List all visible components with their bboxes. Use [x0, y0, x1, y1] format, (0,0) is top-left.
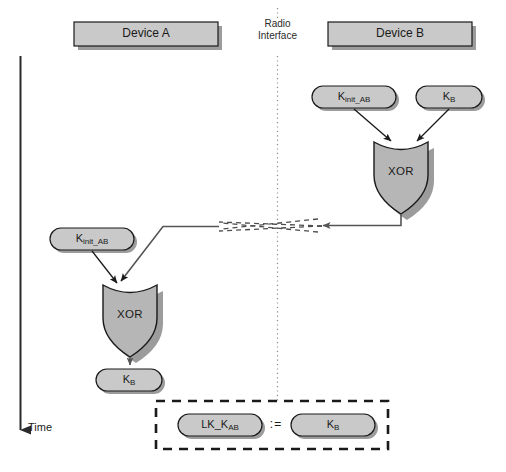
node-a-k-b-output-label: KB — [96, 373, 162, 389]
device-b-input-edges — [354, 109, 449, 141]
node-a-k-b-output-base: K — [123, 373, 130, 385]
device-b-output-edge — [323, 214, 401, 226]
xor-gate-device-b — [374, 142, 434, 220]
xor-gate-device-a-label: XOR — [103, 308, 157, 321]
node-b-k-b-label: KB — [416, 90, 482, 106]
node-b-k-b-subscript: B — [450, 95, 455, 104]
node-result-k-b-base: K — [327, 418, 334, 430]
device-a-incoming-edge — [121, 227, 219, 282]
node-result-k-b-subscript: B — [334, 423, 339, 432]
node-a-k-init-ab-subscript: init_AB — [83, 237, 108, 246]
device-b-label: Device B — [328, 27, 472, 40]
radio-transmission-waves — [219, 219, 322, 232]
node-b-k-init-ab-label: Kinit_AB — [312, 90, 396, 106]
diagram-canvas: Device A Device B Radio Interface Kinit_… — [0, 0, 506, 472]
radio-interface-label-line2: Interface — [243, 30, 312, 42]
node-b-k-b-base: K — [443, 90, 450, 102]
time-axis-label: Time — [28, 421, 68, 434]
xor-gate-device-b-label: XOR — [374, 165, 428, 178]
node-result-k-b-label: KB — [291, 418, 375, 434]
device-a-label: Device A — [74, 27, 218, 40]
node-result-lk-k-ab-subscript: AB — [228, 423, 239, 432]
node-b-k-init-ab-subscript: init_AB — [345, 95, 370, 104]
node-a-k-init-ab-base: K — [76, 232, 83, 244]
xor-gate-device-a — [103, 285, 163, 363]
node-b-k-init-ab-base: K — [338, 90, 345, 102]
radio-interface-label-line1: Radio — [243, 18, 312, 30]
assignment-operator: := — [262, 418, 290, 431]
node-result-lk-k-ab-base: LK_K — [201, 418, 228, 430]
node-a-k-init-ab-label: Kinit_AB — [50, 232, 134, 248]
node-a-k-b-output-subscript: B — [130, 378, 135, 387]
device-a-input-edge — [92, 251, 117, 283]
node-result-lk-k-ab-label: LK_KAB — [178, 418, 262, 434]
